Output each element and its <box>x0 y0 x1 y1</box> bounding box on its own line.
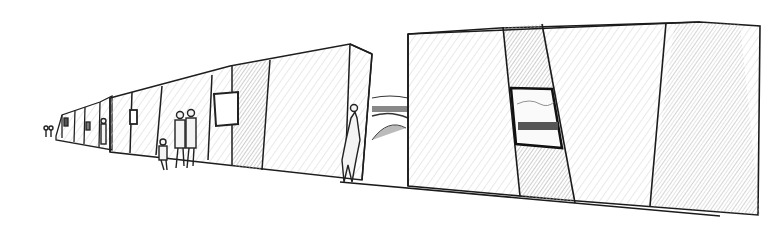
sketch-canvas: Pencil sketch of a row of angular monoli… <box>0 0 775 232</box>
bridge <box>372 96 408 140</box>
middle-building <box>110 44 372 180</box>
figure-near-doorway <box>101 119 106 145</box>
front-building <box>340 22 760 216</box>
pencil-sketch <box>0 0 775 232</box>
figure-child <box>159 139 167 170</box>
figure-distant-pair <box>44 126 53 137</box>
